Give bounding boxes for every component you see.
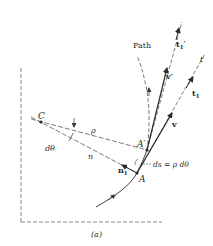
t1-unit-vector: [186, 77, 193, 88]
label-a: A: [138, 174, 146, 184]
path-curve: [96, 56, 149, 207]
point-a-prime: [145, 148, 148, 151]
path-direction-arrow-low: [108, 195, 115, 200]
label-t1: t1: [192, 88, 200, 99]
label-t1-prime: t1′: [176, 38, 186, 50]
label-rho: ρ: [90, 126, 96, 135]
angle-mark: [135, 159, 138, 165]
label-n: n: [88, 152, 93, 161]
label-ds-equation: ds = ρ dθ: [153, 160, 189, 169]
label-v-prime: v′: [165, 71, 173, 81]
labels: Path t1′ t t1 v′ v C ρ dθ n n1 A′ A ds =…: [38, 38, 204, 239]
label-c: C: [38, 111, 45, 121]
path-geometry-diagram: Path t1′ t t1 v′ v C ρ dθ n n1 A′ A ds =…: [0, 0, 213, 246]
label-n1: n1: [118, 165, 128, 176]
label-dtheta: dθ: [45, 144, 55, 153]
figure-caption: (a): [91, 230, 102, 239]
label-path: Path: [133, 41, 151, 50]
label-v: v: [171, 119, 177, 129]
label-a-prime: A′: [136, 139, 146, 149]
